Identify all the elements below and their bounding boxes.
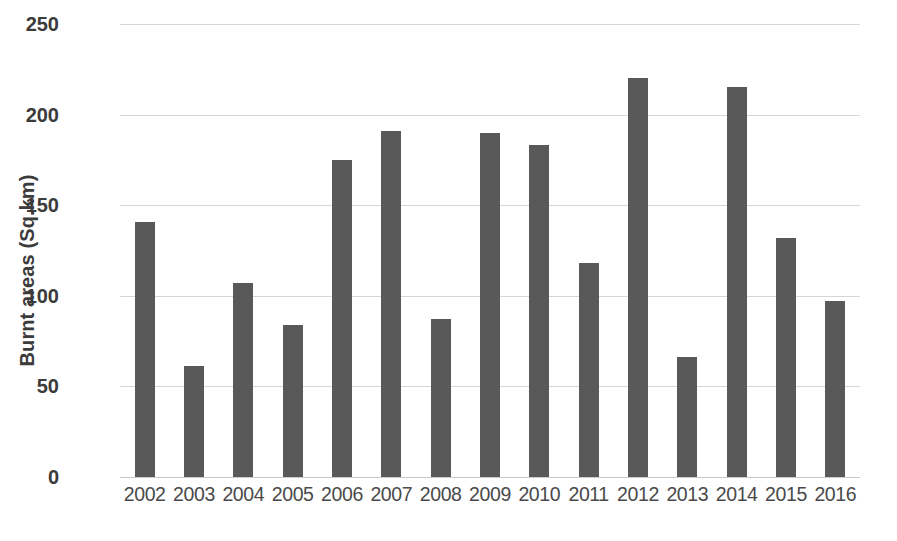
bar-slot-2015 <box>761 24 810 477</box>
gridline-0 <box>120 477 860 478</box>
x-tick-label-2005: 2005 <box>268 484 317 505</box>
x-tick-label-2010: 2010 <box>515 484 564 505</box>
x-axis-tick-labels: 2002200320042005200620072008200920102011… <box>120 484 860 518</box>
x-tick-label-2014: 2014 <box>712 484 761 505</box>
y-tick-label-250: 250 <box>3 14 59 34</box>
bar-slot-2009 <box>465 24 514 477</box>
bar-2005[interactable] <box>283 325 303 477</box>
bar-slot-2008 <box>416 24 465 477</box>
bar-2002[interactable] <box>135 222 155 477</box>
y-tick-label-150: 150 <box>3 195 59 215</box>
x-tick-label-2007: 2007 <box>367 484 416 505</box>
bar-2011[interactable] <box>579 263 599 477</box>
x-tick-label-2016: 2016 <box>811 484 860 505</box>
bar-2003[interactable] <box>184 366 204 477</box>
bar-chart: Burnt areas (Sq.km) 050100150200250 2002… <box>0 0 897 541</box>
bar-2016[interactable] <box>825 301 845 477</box>
bar-slot-2016 <box>811 24 860 477</box>
bar-2007[interactable] <box>381 131 401 477</box>
bar-2013[interactable] <box>677 357 697 477</box>
bar-slot-2014 <box>712 24 761 477</box>
x-tick-label-2009: 2009 <box>465 484 514 505</box>
bar-slot-2006 <box>317 24 366 477</box>
plot-area: 050100150200250 <box>120 24 860 477</box>
bar-slot-2011 <box>564 24 613 477</box>
y-tick-label-0: 0 <box>3 467 59 487</box>
bar-2014[interactable] <box>727 87 747 477</box>
bar-slot-2010 <box>515 24 564 477</box>
bar-slot-2005 <box>268 24 317 477</box>
x-tick-label-2006: 2006 <box>317 484 366 505</box>
x-tick-label-2008: 2008 <box>416 484 465 505</box>
y-axis-title: Burnt areas (Sq.km) <box>0 0 56 541</box>
x-tick-label-2003: 2003 <box>169 484 218 505</box>
bar-series <box>120 24 860 477</box>
bar-2008[interactable] <box>431 319 451 477</box>
bar-slot-2013 <box>663 24 712 477</box>
bar-slot-2012 <box>613 24 662 477</box>
bar-2006[interactable] <box>332 160 352 477</box>
bar-2012[interactable] <box>628 78 648 477</box>
y-tick-label-100: 100 <box>3 286 59 306</box>
x-tick-label-2015: 2015 <box>761 484 810 505</box>
bar-slot-2007 <box>367 24 416 477</box>
bar-slot-2002 <box>120 24 169 477</box>
x-tick-label-2002: 2002 <box>120 484 169 505</box>
bar-slot-2004 <box>219 24 268 477</box>
y-tick-label-50: 50 <box>3 376 59 396</box>
y-tick-label-200: 200 <box>3 105 59 125</box>
bar-2004[interactable] <box>233 283 253 477</box>
bar-2009[interactable] <box>480 133 500 477</box>
bar-2015[interactable] <box>776 238 796 477</box>
x-tick-label-2012: 2012 <box>613 484 662 505</box>
x-tick-label-2013: 2013 <box>663 484 712 505</box>
x-tick-label-2004: 2004 <box>219 484 268 505</box>
x-tick-label-2011: 2011 <box>564 484 613 505</box>
bar-slot-2003 <box>169 24 218 477</box>
bar-2010[interactable] <box>529 145 549 477</box>
